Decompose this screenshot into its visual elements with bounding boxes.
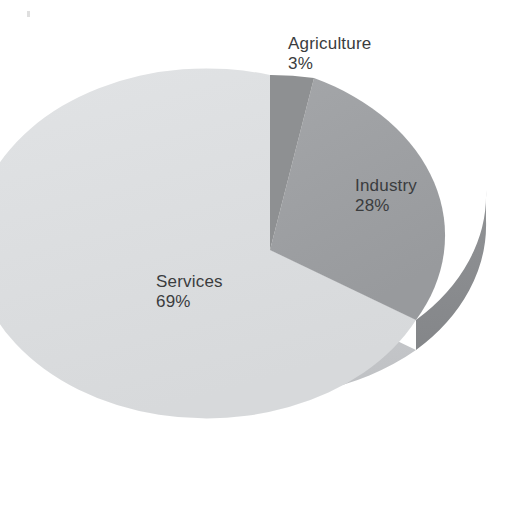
pie-chart-figure: Agriculture 3% Industry 28% Services 69% [0, 0, 530, 512]
paper-texture-overlay [0, 0, 530, 512]
slice-label-industry-name: Industry [355, 176, 417, 196]
slice-label-services-value: 69% [156, 292, 223, 312]
slice-label-services-name: Services [156, 272, 223, 292]
slice-label-agriculture-name: Agriculture [288, 34, 371, 54]
slice-label-industry-value: 28% [355, 196, 417, 216]
slice-label-services: Services 69% [156, 272, 223, 312]
slice-label-industry: Industry 28% [355, 176, 417, 216]
pie-chart-graphic [0, 0, 530, 512]
slice-label-agriculture-value: 3% [288, 54, 371, 74]
slice-label-agriculture: Agriculture 3% [288, 34, 371, 74]
